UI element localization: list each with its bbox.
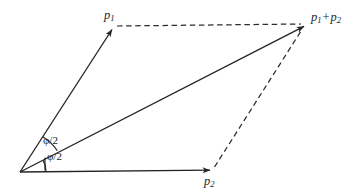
vector-p2 [20, 170, 210, 172]
label-angle-upper: φ/2 [43, 135, 58, 146]
diagram-canvas [0, 0, 357, 192]
label-p2: p2 [204, 175, 215, 189]
label-sum-operator: + [322, 10, 331, 24]
label-sum-subscript2: 2 [337, 15, 341, 25]
vector-p1-plus-p2 [20, 26, 304, 172]
label-sum-subscript1: 1 [317, 15, 321, 25]
dashed-construction-lines [117, 24, 302, 167]
vector-addition-figure: p1 p1+p2 p2 φ/2 φ/2 [0, 0, 357, 192]
solid-vectors [20, 26, 304, 172]
dashed-line-p1-to-sum [117, 24, 301, 26]
label-p1: p1 [104, 9, 115, 23]
vector-p1 [20, 30, 112, 173]
label-angle-lower: φ/2 [47, 151, 62, 162]
label-p1-subscript: 1 [110, 13, 114, 23]
label-p2-subscript: 2 [210, 179, 214, 189]
label-p1-plus-p2: p1+p2 [311, 11, 341, 25]
